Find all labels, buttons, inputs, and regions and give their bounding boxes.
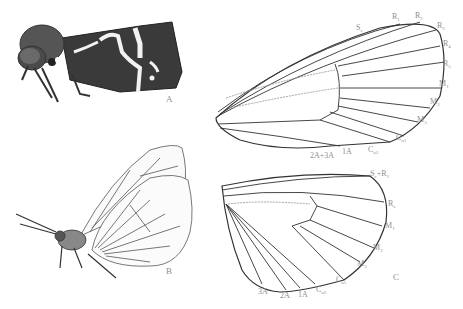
butterfly-illustration [16,145,192,278]
vein-label-r3: R3 [437,22,445,33]
vein-label-cu1: Cu1 [396,134,406,145]
panel-label-c: C [393,272,399,282]
vein-label-1a: 1A [342,148,352,156]
vein-label-sc: Sc [356,24,363,35]
vein-label-sc-r1: Sc+R1 [370,170,389,181]
vein-label-m2: M2 [430,98,440,109]
vein-label-h1a: 1A [298,291,308,299]
vein-label-m3: M3 [417,116,427,127]
vein-label-h3a: 3A [258,288,268,296]
vein-label-h2a: 2A [280,292,290,300]
vein-label-r2: R2 [415,12,423,23]
hindwing-venation [222,174,387,292]
vein-label-hm2: M2 [373,244,383,255]
forewing-venation [216,22,445,148]
vein-label-r5: R5 [443,60,451,71]
vein-label-cu2: Cu2 [368,146,378,157]
vein-label-hcu2: Cu2 [316,286,326,297]
vein-label-2a3a: 2A+3A [310,152,334,160]
panel-label-a: A [166,94,173,104]
vein-label-rs: Rs [388,200,395,211]
vein-label-hcu1: Cu1 [336,276,346,287]
figure-canvas [0,0,463,309]
vein-label-hm3: M3 [357,260,367,271]
vein-label-r1: R1 [392,13,400,24]
panel-label-b: B [166,266,172,276]
moth-illustration [18,22,182,102]
vein-label-hm1: M1 [385,222,395,233]
vein-label-r4: R4 [443,40,451,51]
vein-label-m1: M1 [439,80,449,91]
